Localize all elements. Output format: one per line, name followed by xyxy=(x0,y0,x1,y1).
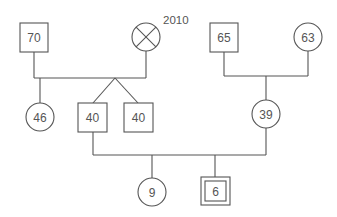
death-year-label: 2010 xyxy=(163,14,189,26)
individual-gf-maternal: 65 xyxy=(210,23,238,52)
age-label: 65 xyxy=(217,31,231,45)
age-label: 39 xyxy=(259,108,273,122)
pedigree-diagram: 70 2010 65 63 46 40 40 39 9 xyxy=(0,0,337,217)
age-label: 40 xyxy=(132,111,146,125)
age-label: 6 xyxy=(212,185,219,199)
individual-mother: 39 xyxy=(252,100,280,128)
age-label: 46 xyxy=(33,111,47,125)
age-label: 9 xyxy=(149,186,156,200)
age-label: 63 xyxy=(301,31,315,45)
age-label: 70 xyxy=(27,31,41,45)
individual-sister: 9 xyxy=(138,178,166,206)
twin-line-right xyxy=(115,78,138,103)
individual-gf-paternal: 70 xyxy=(20,23,48,52)
twin-line-left xyxy=(93,78,115,103)
individual-uncle-twin: 40 xyxy=(124,103,153,132)
individual-proband: 6 xyxy=(201,177,230,205)
individual-father: 40 xyxy=(78,103,107,132)
age-label: 40 xyxy=(86,111,100,125)
individual-gm-paternal: 2010 xyxy=(132,14,189,51)
individual-gm-maternal: 63 xyxy=(294,23,322,51)
individual-aunt: 46 xyxy=(26,103,54,131)
